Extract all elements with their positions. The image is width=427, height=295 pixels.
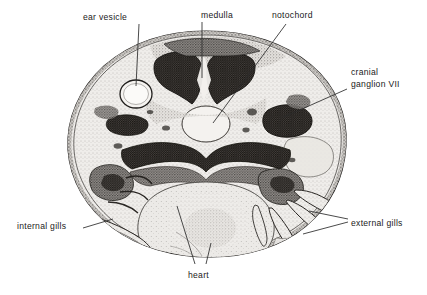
label-heart: heart <box>188 270 209 281</box>
label-cranial-line1: cranial <box>351 67 378 77</box>
label-internal-gills: internal gills <box>17 221 66 232</box>
leader-external-gills-b <box>303 222 348 234</box>
anatomy-figure <box>0 0 427 295</box>
notochord-body <box>182 106 230 142</box>
label-cranial-ganglion-vii: cranial ganglion VII <box>351 67 425 90</box>
label-ear-vesicle: ear vesicle <box>83 12 127 23</box>
specimen-body <box>68 31 346 266</box>
label-external-gills: external gills <box>351 218 403 229</box>
label-cranial-line2: ganglion VII <box>351 79 400 89</box>
label-medulla: medulla <box>201 10 233 21</box>
label-notochord: notochord <box>272 10 313 21</box>
